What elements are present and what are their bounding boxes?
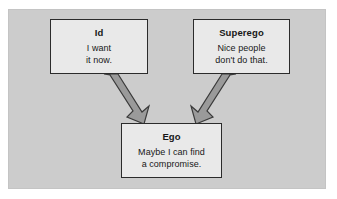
node-id-body: I want it now. (86, 43, 112, 66)
node-superego: Superego Nice people don't do that. (193, 19, 290, 74)
node-id-line2: it now. (86, 55, 112, 67)
node-superego-title: Superego (219, 27, 264, 38)
node-superego-body: Nice people don't do that. (215, 43, 267, 66)
node-ego: Ego Maybe I can find a compromise. (121, 123, 222, 178)
node-id-line1: I want (86, 43, 112, 55)
node-ego-body: Maybe I can find a compromise. (138, 147, 205, 170)
node-superego-line1: Nice people (215, 43, 267, 55)
node-id-title: Id (95, 27, 104, 38)
diagram-figure: Id I want it now. Superego Nice people d… (0, 0, 337, 199)
node-ego-title: Ego (162, 131, 180, 142)
node-ego-line2: a compromise. (138, 159, 205, 171)
node-id: Id I want it now. (50, 19, 148, 74)
node-ego-line1: Maybe I can find (138, 147, 205, 159)
node-superego-line2: don't do that. (215, 55, 267, 67)
